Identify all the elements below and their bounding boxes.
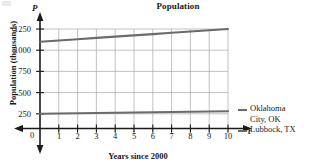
legend-label: Lubbock, TX [250, 125, 296, 135]
plot-canvas [0, 0, 313, 168]
y-tick-label: 250 [3, 109, 31, 119]
y-tick-label: 1000 [3, 45, 31, 55]
chart-legend: Oklahoma City, OK Lubbock, TX [238, 104, 313, 136]
origin-label: 0 [26, 130, 38, 140]
x-tick-label: 9 [202, 131, 216, 141]
x-tick-label: 5 [127, 131, 141, 141]
grid-lines-vertical [59, 29, 228, 135]
x-tick-label: 4 [108, 131, 122, 141]
x-tick-label: 7 [165, 131, 179, 141]
y-tick-label: 500 [3, 88, 31, 98]
legend-label: Oklahoma [250, 104, 285, 114]
legend-label-continuation: City, OK [250, 115, 313, 125]
legend-item-lubbock: Lubbock, TX [238, 125, 313, 135]
x-tick-label: 8 [183, 131, 197, 141]
legend-swatch-icon [238, 109, 247, 111]
y-tick-label: 750 [3, 66, 31, 76]
x-tick-label: 10 [220, 131, 237, 141]
legend-swatch-icon [238, 130, 247, 132]
legend-item-oklahoma-city: Oklahoma [238, 104, 313, 114]
x-tick-label: 3 [89, 131, 103, 141]
x-tick-label: 2 [71, 131, 85, 141]
y-tick-label: 1250 [3, 24, 31, 34]
x-tick-label: 6 [146, 131, 160, 141]
chart-figure: Population P t Population (thousands) Ye… [0, 0, 313, 168]
series-line-lubbock [40, 111, 228, 114]
x-tick-label: 1 [52, 131, 66, 141]
